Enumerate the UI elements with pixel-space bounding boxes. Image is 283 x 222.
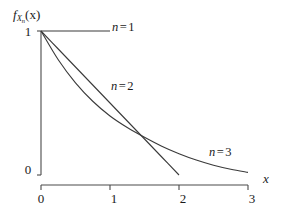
y-axis-label-arg: (x) xyxy=(25,7,40,22)
series-annotation-n2-num: 2 xyxy=(127,79,133,93)
series-annotation-n1-num: 1 xyxy=(128,20,134,34)
series-annotation-n1-eq: = xyxy=(118,20,128,34)
y-tick-label-1: 1 xyxy=(21,25,35,38)
x-tick-label-2: 2 xyxy=(176,192,190,205)
series-annotation-n3: n=3 xyxy=(209,146,232,159)
x-tick-label-0: 0 xyxy=(34,192,48,205)
series-line-n2 xyxy=(41,31,179,175)
series-annotation-n2-eq: = xyxy=(117,79,127,93)
series-annotation-n3-eq: = xyxy=(215,145,225,159)
x-tick-label-3: 3 xyxy=(245,192,259,205)
x-tick-label-1: 1 xyxy=(107,192,121,205)
plot-canvas xyxy=(0,0,283,222)
x-axis-label: x xyxy=(263,172,269,185)
series-annotation-n2: n=2 xyxy=(111,80,134,93)
series-annotation-n1: n=1 xyxy=(112,21,135,34)
series-annotation-n3-num: 3 xyxy=(225,145,231,159)
y-axis-label: fXn(x) xyxy=(13,8,40,24)
figure-panel: fXn(x) x 1 0 0 1 2 3 n=1 n=2 n=3 xyxy=(0,0,283,222)
y-tick-label-0: 0 xyxy=(21,163,35,176)
